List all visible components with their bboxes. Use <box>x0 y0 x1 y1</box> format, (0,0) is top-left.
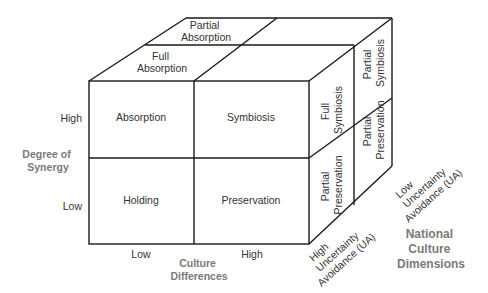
cell-symbiosis: Symbiosis <box>227 111 275 123</box>
top-full-absorption: Full Absorption <box>137 50 187 74</box>
cube-edges <box>89 18 392 244</box>
svg-text:High Uncertainty A: High Uncertainty Avoidance (UA) <box>299 213 378 289</box>
svg-text:Partial Symbiosis: Partial Symbiosis <box>361 39 386 87</box>
y-axis-high-label: High <box>60 112 82 124</box>
cell-preservation: Preservation <box>222 194 281 206</box>
z-axis-high-label: High Uncertainty Avoidance (UA) <box>299 213 378 289</box>
y-axis-low-label: Low <box>63 200 83 212</box>
svg-text:Partial Preservation: Partial Preservation <box>361 100 386 159</box>
x-axis-high-label: High <box>241 248 263 260</box>
y-axis-title: Degree of Synergy <box>22 148 73 173</box>
svg-text:Low Uncertainty Av: Low Uncertainty Avoidance (UA) <box>386 149 465 225</box>
right-partial-preservation-front: Partial Preservation <box>319 155 344 214</box>
svg-text:Full Symbiosis: Full Symbiosis <box>319 86 344 134</box>
svg-text:Partial Preservation: Partial Preservation <box>319 155 344 214</box>
cell-holding: Holding <box>123 194 159 206</box>
cell-absorption: Absorption <box>116 111 166 123</box>
right-full-symbiosis: Full Symbiosis <box>319 86 344 134</box>
top-partial-absorption: Partial Absorption <box>181 19 231 43</box>
culture-synergy-cube-diagram: Absorption Symbiosis Holding Preservatio… <box>0 0 488 293</box>
right-partial-symbiosis: Partial Symbiosis <box>361 39 386 87</box>
z-axis-low-label: Low Uncertainty Avoidance (UA) <box>386 149 465 225</box>
z-axis-title: National Culture Dimensions <box>397 227 465 271</box>
front-face-outline <box>89 81 309 244</box>
x-axis-title: Culture Differences <box>170 257 227 282</box>
x-axis-low-label: Low <box>131 248 151 260</box>
right-partial-preservation-back: Partial Preservation <box>361 100 386 159</box>
